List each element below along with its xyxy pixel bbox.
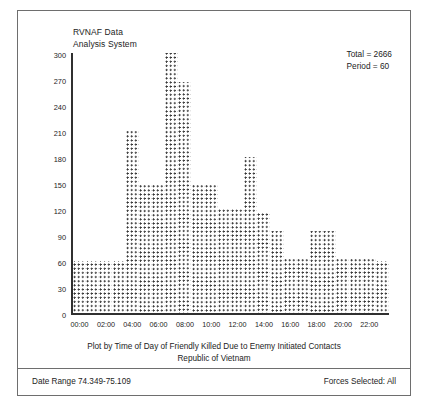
x-tick-label: 20:00 <box>334 320 352 329</box>
bar-column <box>271 231 284 313</box>
x-tick-label: 02:00 <box>97 320 115 329</box>
bar-column <box>336 259 349 313</box>
bar-column <box>192 185 205 313</box>
x-tick-label: 18:00 <box>308 320 326 329</box>
x-tick-label: 06:00 <box>150 320 168 329</box>
bar-column <box>231 209 244 313</box>
y-tick-label: 60 <box>58 259 66 268</box>
y-tick-label: 120 <box>54 207 66 216</box>
footer: Date Range 74.349-75.109 Forces Selected… <box>32 377 396 386</box>
chart-caption-line2: Republic of Vietnam <box>18 353 410 365</box>
bar-column <box>284 259 297 313</box>
bar-column <box>99 261 112 313</box>
y-tick-label: 30 <box>58 285 66 294</box>
bar-column <box>126 131 139 313</box>
y-tick-label: 150 <box>54 181 66 190</box>
bar-column <box>257 213 270 313</box>
x-tick-label: 16:00 <box>281 320 299 329</box>
bar-column <box>244 157 257 313</box>
bar-series <box>73 53 389 313</box>
y-tick-label: 270 <box>54 77 66 86</box>
bar-column <box>350 259 363 313</box>
x-tick-label: 22:00 <box>360 320 378 329</box>
y-tick-label: 0 <box>62 311 66 320</box>
chart-plot-area: 0306090120150180210240270300 00:0002:000… <box>71 53 389 315</box>
x-tick-label: 00:00 <box>71 320 89 329</box>
bar-column <box>178 82 191 313</box>
bar-column <box>113 261 126 313</box>
page-title: RVNAF Data Analysis System <box>73 27 213 50</box>
bar-column <box>152 185 165 313</box>
bar-column <box>323 231 336 313</box>
x-tick-label: 04:00 <box>123 320 141 329</box>
bar-column <box>376 261 389 313</box>
bar-column <box>218 209 231 313</box>
y-tick-label: 240 <box>54 103 66 112</box>
bar-column <box>139 185 152 313</box>
chart-caption: Plot by Time of Day of Friendly Killed D… <box>18 341 410 365</box>
y-tick-label: 300 <box>54 51 66 60</box>
x-tick-label: 08:00 <box>176 320 194 329</box>
bar-column <box>363 259 376 313</box>
page-title-line1: RVNAF Data <box>73 27 123 37</box>
bar-column <box>73 261 86 313</box>
x-tick-label: 14:00 <box>255 320 273 329</box>
page-title-line2: Analysis System <box>73 39 213 51</box>
x-tick-label: 12:00 <box>229 320 247 329</box>
x-tick-label: 10:00 <box>202 320 220 329</box>
date-range-label: Date Range 74.349-75.109 <box>32 377 131 386</box>
report-panel: RVNAF Data Analysis System Total = 2666 … <box>17 10 411 396</box>
y-tick-label: 180 <box>54 155 66 164</box>
chart-caption-line1: Plot by Time of Day of Friendly Killed D… <box>87 342 340 351</box>
footer-divider <box>18 368 410 369</box>
y-tick-label: 210 <box>54 129 66 138</box>
y-tick-label: 90 <box>58 233 66 242</box>
forces-selected-label: Forces Selected: All <box>324 377 396 386</box>
x-axis-line <box>71 313 389 315</box>
bar-column <box>297 259 310 313</box>
bar-column <box>310 231 323 313</box>
bar-column <box>86 261 99 313</box>
bar-column <box>165 53 178 313</box>
bar-column <box>205 185 218 313</box>
